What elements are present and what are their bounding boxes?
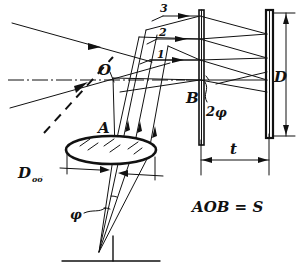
formula-aob-equals-s: AOB = S <box>190 198 263 216</box>
label-objective-diameter-subscript: об <box>32 174 43 184</box>
crossing-rays-b-to-d <box>200 16 267 92</box>
converging-beam-lower <box>99 150 148 252</box>
incoming-ray-upper <box>12 23 152 62</box>
label-point-o: O <box>98 61 111 79</box>
ray-label-2: 2 <box>158 26 167 39</box>
screen-d <box>266 10 273 138</box>
label-point-a: A <box>96 119 110 137</box>
label-objective-diameter: D <box>17 164 31 182</box>
label-gap-thickness: t <box>230 140 237 158</box>
diagram-canvas: O φ <box>0 0 302 269</box>
label-screen-height: D <box>273 68 287 86</box>
label-point-b: B <box>185 89 199 107</box>
optical-diagram-figure: O φ <box>0 0 302 269</box>
incoming-ray-lower <box>10 63 170 108</box>
label-angle-2phi-prefix: 2 <box>205 104 215 119</box>
plate-b <box>199 10 204 145</box>
label-angle-phi-lower: φ <box>70 207 82 222</box>
angle-phi-marker <box>84 196 117 213</box>
ray-label-1: 1 <box>157 48 165 61</box>
label-angle-2phi: φ <box>215 105 227 120</box>
ray-label-3: 3 <box>160 2 168 15</box>
base-stand <box>62 236 160 261</box>
objective-lens <box>66 136 156 164</box>
